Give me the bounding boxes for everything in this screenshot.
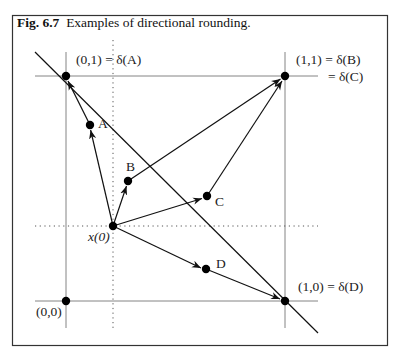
label-p00: (0,0) — [36, 305, 62, 319]
point-D — [202, 265, 210, 273]
point-B — [124, 177, 132, 185]
point-10 — [281, 297, 289, 305]
point-11 — [281, 72, 289, 80]
caption-text: Examples of directional rounding. — [66, 15, 250, 30]
label-p10: (1,0) = δ(D) — [298, 280, 363, 294]
point-00 — [62, 297, 70, 305]
label-origin: x(0) — [88, 230, 110, 244]
arrow-origin-to-A — [91, 130, 113, 226]
figure-caption: Fig. 6.7 Examples of directional roundin… — [17, 15, 251, 31]
arrow-origin-to-B — [113, 186, 127, 226]
point-origin — [109, 222, 117, 230]
label-A: A — [98, 117, 108, 131]
label-p11-line2: = δ(C) — [328, 70, 363, 84]
caption-number: Fig. 6.7 — [17, 15, 59, 30]
label-B: B — [126, 160, 135, 174]
directional-rounding-figure: Fig. 6.7 Examples of directional roundin… — [0, 0, 402, 356]
label-D: D — [216, 257, 226, 271]
arrow-origin-to-C — [113, 199, 202, 227]
arrow-B-to-11 — [128, 79, 281, 181]
point-01 — [62, 72, 70, 80]
label-p01: (0,1) = δ(A) — [76, 53, 141, 67]
point-C — [203, 192, 211, 200]
point-A — [86, 121, 94, 129]
arrow-origin-to-D — [113, 226, 201, 268]
label-C: C — [215, 195, 224, 209]
dotted-axes — [35, 40, 318, 328]
arrow-C-to-11 — [207, 81, 282, 196]
direction-line — [35, 52, 318, 333]
label-p11-line1: (1,1) = δ(B) — [296, 53, 361, 67]
